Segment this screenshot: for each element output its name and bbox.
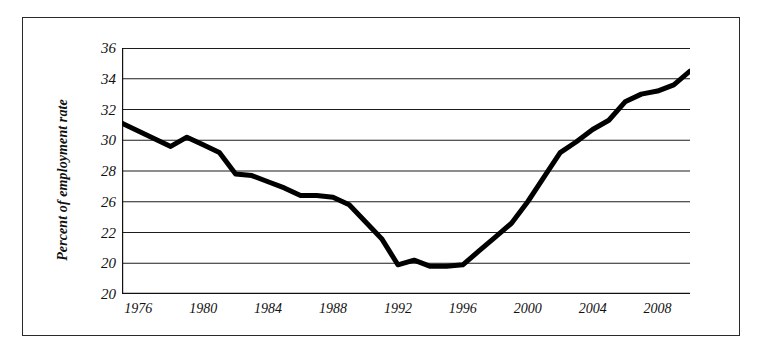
x-axis-tick-label: 2004 [563,302,623,316]
plot-area [122,48,690,294]
y-axis-tick-label: 26 [82,195,116,210]
x-axis-tick-label: 1988 [303,302,363,316]
x-axis-tick-label: 1980 [173,302,233,316]
y-axis-tick-label: 22 [82,226,116,241]
y-axis-tick-label: 28 [82,164,116,179]
y-axis-tick-label: 32 [82,103,116,118]
x-axis-tick-labels: 197619801984198819921996200020042008 [122,302,690,324]
y-axis-tick-label: 34 [82,72,116,87]
gridlines [122,48,690,263]
x-axis-tick-label: 1996 [433,302,493,316]
x-axis-tick-label: 2000 [498,302,558,316]
x-axis-tick-label: 2008 [628,302,688,316]
x-axis-tick-label: 1976 [108,302,168,316]
chart-plot-svg [122,48,690,294]
y-axis-tick-label: 30 [82,133,116,148]
y-axis-tick-label: 36 [82,41,116,56]
y-axis-tick-label: 20 [82,287,116,302]
chart-figure: Percent of employment rate 3634323028262… [0,0,765,360]
y-axis-tick-label: 20 [82,256,116,271]
x-axis-tick-label: 1992 [368,302,428,316]
y-axis-tick-labels: 363432302826222020 [82,48,116,294]
x-axis-tick-label: 1984 [238,302,298,316]
data-series-line [122,71,690,266]
y-axis-title: Percent of employment rate [55,70,71,290]
